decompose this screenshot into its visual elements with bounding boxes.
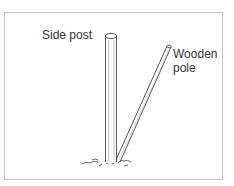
wooden-pole-label-line1: Wooden [173,48,217,61]
wooden-pole-label-line2: pole [173,62,196,75]
side-post-label: Side post [42,29,92,42]
wooden-pole-drawing [116,45,171,162]
ground-tufts [82,159,131,166]
side-post-drawing [106,33,117,162]
post-and-pole-illustration [0,0,234,186]
